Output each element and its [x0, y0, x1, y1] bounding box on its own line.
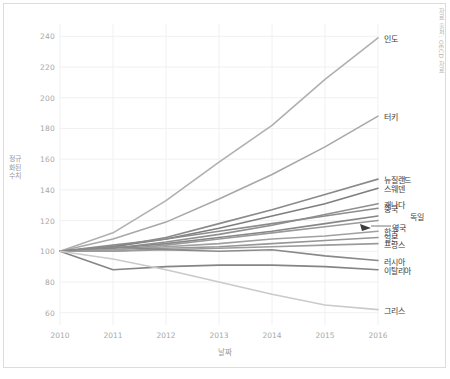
source-note: 자료 출처: OECD 자료 — [437, 8, 446, 73]
x-axis-tick-labels: 2010201120122013201420152016 — [60, 331, 378, 345]
y-tick-240: 240 — [40, 32, 55, 41]
series-label-6: 독일 — [410, 210, 424, 221]
series-label-5: 중국 — [384, 203, 398, 214]
x-axis-title: 날짜 — [0, 346, 450, 357]
series-label-12: 이탈리아 — [384, 264, 411, 275]
chart-figure: 6080100120140160180200220240 20102011201… — [0, 0, 450, 379]
x-tick-2014: 2014 — [262, 331, 281, 340]
plot-area — [60, 24, 378, 325]
y-axis-title: 정규화된 수치 — [9, 155, 21, 181]
series-label-10: 프랑스 — [384, 238, 404, 249]
plot-svg — [60, 24, 378, 325]
y-tick-160: 160 — [40, 155, 55, 164]
x-tick-2011: 2011 — [103, 331, 122, 340]
y-tick-80: 80 — [45, 278, 55, 287]
series-label-13: 그리스 — [384, 304, 404, 315]
germany-callout-arrow — [360, 224, 371, 231]
series-label-1: 터키 — [384, 111, 398, 122]
y-tick-180: 180 — [40, 124, 55, 133]
series-label-0: 인도 — [384, 32, 398, 43]
y-tick-140: 140 — [40, 185, 55, 194]
y-tick-60: 60 — [45, 308, 55, 317]
x-tick-2016: 2016 — [368, 331, 387, 340]
x-tick-2013: 2013 — [209, 331, 228, 340]
x-tick-2012: 2012 — [156, 331, 175, 340]
y-tick-220: 220 — [40, 63, 55, 72]
y-tick-100: 100 — [40, 247, 55, 256]
series-label-3: 스웨덴 — [384, 183, 404, 194]
x-tick-2015: 2015 — [315, 331, 334, 340]
y-tick-120: 120 — [40, 216, 55, 225]
x-tick-2010: 2010 — [50, 331, 69, 340]
y-tick-200: 200 — [40, 93, 55, 102]
